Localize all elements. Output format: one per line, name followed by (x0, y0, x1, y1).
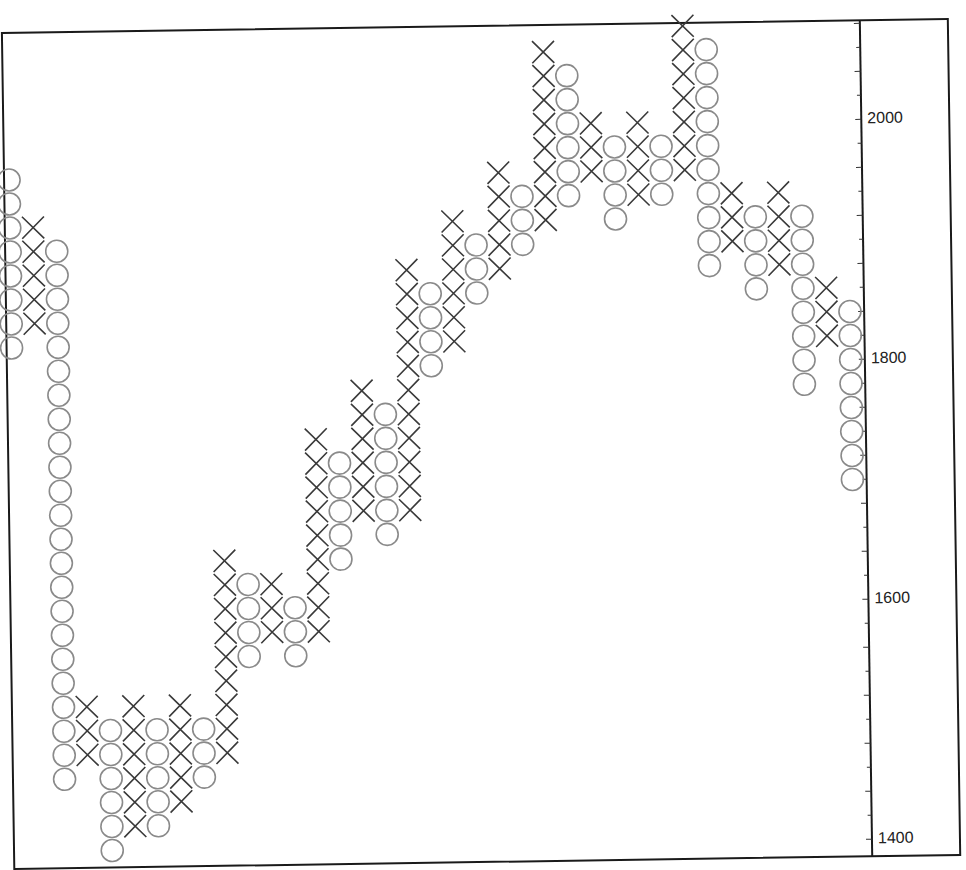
o-mark (53, 768, 75, 790)
o-mark (557, 137, 579, 159)
o-mark (839, 348, 861, 370)
x-mark (442, 282, 464, 304)
x-mark (397, 379, 419, 401)
o-mark (465, 258, 487, 280)
price-axis-labels: 2000 1800 1600 1400 (867, 109, 914, 846)
o-mark (238, 645, 260, 667)
x-mark (397, 355, 419, 377)
o-mark (101, 839, 123, 861)
o-mark (604, 208, 626, 230)
pf-column-o (791, 205, 816, 395)
x-mark (351, 404, 373, 426)
o-mark (604, 160, 626, 182)
x-mark (215, 694, 237, 716)
x-mark (76, 696, 98, 718)
o-mark (52, 672, 74, 694)
pf-column-o (556, 65, 580, 207)
pf-column-x (580, 112, 603, 182)
o-mark (146, 719, 168, 741)
o-mark (374, 403, 396, 425)
pf-column-o (511, 185, 534, 255)
o-mark (793, 373, 815, 395)
o-mark (650, 135, 672, 157)
x-mark (215, 670, 237, 692)
pf-chart: 2000 1800 1600 1400 (0, 0, 966, 870)
x-mark (76, 720, 98, 742)
o-mark (744, 206, 766, 228)
o-mark (193, 742, 215, 764)
o-mark (0, 193, 21, 215)
o-mark (53, 744, 75, 766)
o-mark (557, 184, 579, 206)
o-mark (556, 113, 578, 135)
x-mark (170, 766, 192, 788)
pf-column-o (146, 719, 170, 837)
x-mark (672, 39, 694, 61)
o-mark (698, 254, 720, 276)
o-mark (49, 456, 71, 478)
pf-column-o (328, 452, 352, 570)
x-mark (398, 427, 420, 449)
pf-column-o (374, 403, 398, 545)
x-mark (580, 136, 602, 158)
x-mark (673, 111, 695, 133)
x-mark (443, 306, 465, 328)
o-mark (0, 289, 22, 311)
x-mark (306, 524, 328, 546)
pf-column-x (721, 182, 744, 252)
x-mark (76, 744, 98, 766)
o-mark (839, 300, 861, 322)
x-mark (22, 240, 44, 262)
tick-label-1800: 1800 (871, 349, 907, 367)
x-mark (399, 499, 421, 521)
o-mark (238, 621, 260, 643)
o-mark (100, 743, 122, 765)
o-mark (192, 718, 214, 740)
x-mark (721, 230, 743, 252)
o-mark (603, 136, 625, 158)
x-mark (768, 229, 790, 251)
x-mark (534, 209, 556, 231)
x-mark (215, 646, 237, 668)
x-mark (213, 550, 235, 572)
o-mark (285, 645, 307, 667)
x-mark (308, 620, 330, 642)
o-mark (650, 159, 672, 181)
price-axis-line (860, 20, 872, 856)
pf-column-o (99, 719, 123, 861)
o-mark (47, 312, 69, 334)
pf-column-x (395, 259, 421, 521)
x-mark (307, 596, 329, 618)
pf-column-x (351, 380, 375, 522)
o-mark (284, 597, 306, 619)
o-mark (52, 696, 74, 718)
x-mark (627, 183, 649, 205)
x-mark (123, 719, 145, 741)
x-mark (673, 135, 695, 157)
o-mark (793, 325, 815, 347)
o-mark (695, 38, 717, 60)
x-mark (815, 301, 837, 323)
pf-column-x (22, 216, 46, 334)
o-mark (557, 160, 579, 182)
o-mark (696, 86, 718, 108)
o-mark (100, 791, 122, 813)
pf-column-x (260, 573, 283, 643)
o-mark (0, 337, 22, 359)
o-mark (792, 277, 814, 299)
pf-column-o (419, 283, 442, 377)
x-mark (580, 160, 602, 182)
x-mark (532, 65, 554, 87)
pf-column-o (284, 597, 307, 667)
pf-column-o (465, 234, 488, 304)
plot-area (0, 12, 869, 863)
o-mark (53, 720, 75, 742)
pf-column-x (487, 162, 511, 280)
o-mark (0, 313, 22, 335)
o-mark (329, 524, 351, 546)
o-mark (376, 499, 398, 521)
x-mark (674, 159, 696, 181)
o-mark (52, 648, 74, 670)
x-mark (398, 403, 420, 425)
pf-column-x (441, 210, 465, 352)
